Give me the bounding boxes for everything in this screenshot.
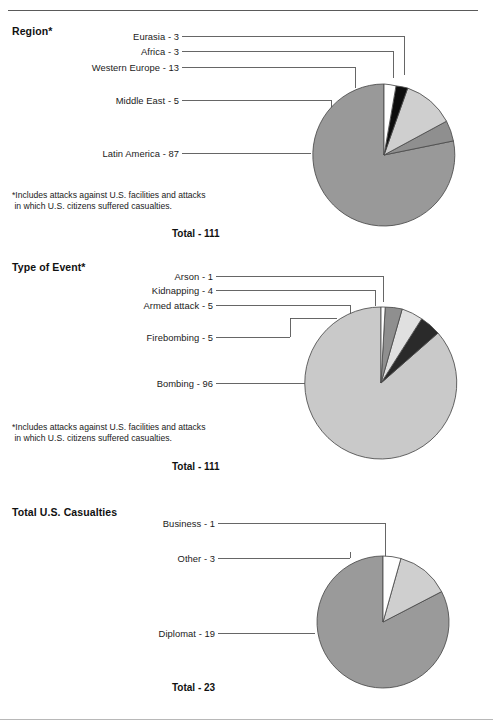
pie-chart-casualties — [0, 0, 493, 728]
page-root: Region* Eurasia - 3 Africa - 3 Western E… — [0, 0, 493, 728]
total-label-casualties: Total - 23 — [172, 682, 215, 693]
footer-divider — [0, 719, 493, 720]
pie-slices-casualties — [317, 556, 449, 688]
